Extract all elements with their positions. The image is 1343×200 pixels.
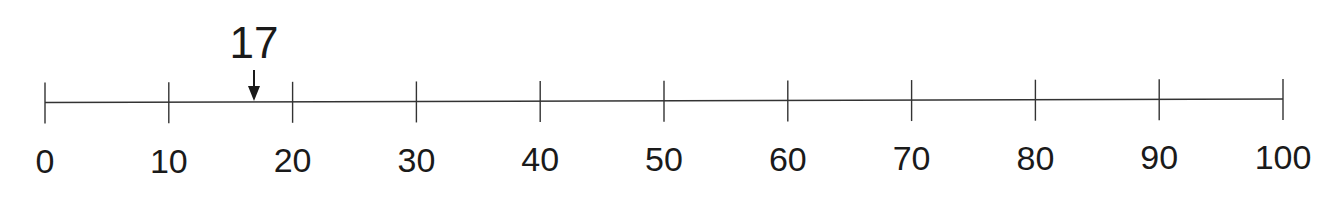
tick-label-100: 100 xyxy=(1255,138,1312,176)
tick-label-20: 20 xyxy=(274,141,312,179)
number-line-diagram: 0102030405060708090100 17 xyxy=(0,0,1343,200)
tick-label-0: 0 xyxy=(36,142,55,180)
down-arrow-icon xyxy=(248,70,260,101)
tick-labels: 0102030405060708090100 xyxy=(36,138,1312,180)
tick-label-80: 80 xyxy=(1016,139,1054,177)
marker-17: 17 xyxy=(230,18,279,101)
tick-label-90: 90 xyxy=(1140,138,1178,176)
tick-label-40: 40 xyxy=(521,140,559,178)
tick-label-30: 30 xyxy=(397,141,435,179)
tick-label-10: 10 xyxy=(150,142,188,180)
tick-label-60: 60 xyxy=(769,140,807,178)
tick-label-50: 50 xyxy=(645,140,683,178)
marker-label: 17 xyxy=(230,18,279,67)
tick-label-70: 70 xyxy=(893,139,931,177)
